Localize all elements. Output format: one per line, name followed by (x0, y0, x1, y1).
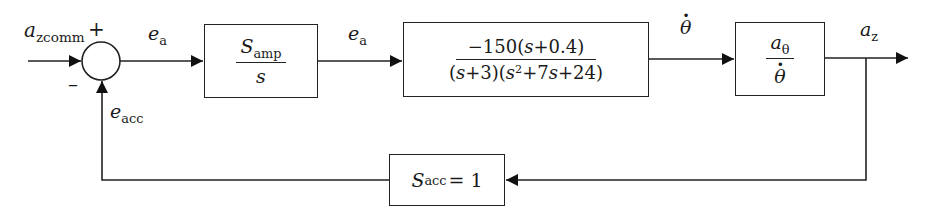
feedback-label: eacc (110, 100, 143, 126)
error-label: ea (148, 22, 167, 48)
summing-junction (82, 42, 120, 80)
plus-sign: + (88, 17, 105, 41)
input-label: azcomm (24, 18, 85, 45)
output-label: az (860, 18, 878, 44)
minus-sign: – (68, 72, 78, 96)
airframe-block: −150(s+0.4) (s+3)(s2+7s+24) (403, 22, 649, 97)
pitch-rate-label: θ (680, 16, 691, 38)
amplifier-block: Samp s (204, 24, 318, 98)
kinematics-block: aθ θ (735, 22, 825, 96)
amplifier-transfer-function: Samp s (236, 35, 285, 88)
airframe-transfer-function: −150(s+0.4) (s+3)(s2+7s+24) (449, 36, 603, 83)
amp-output-label: ea (348, 22, 367, 48)
accelerometer-block: Sacc= 1 (389, 154, 505, 206)
kinematics-transfer-function: aθ θ (766, 31, 793, 88)
